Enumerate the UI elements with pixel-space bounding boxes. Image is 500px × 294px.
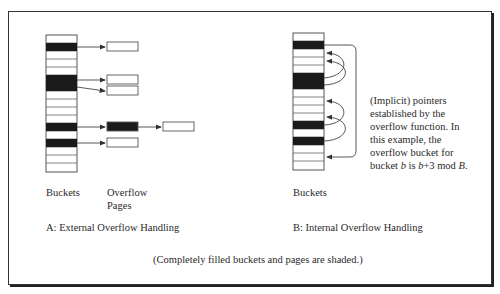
part-a-title: A: External Overflow Handling (46, 222, 179, 234)
note-line-formula: bucket b is b+3 mod B. (370, 159, 468, 172)
overflow-label-a: Overflow (107, 187, 147, 199)
buckets-label-b: Buckets (293, 187, 327, 199)
note-line: (Implicit) pointers (370, 94, 468, 107)
note-line: this example, the (370, 133, 468, 146)
implicit-pointer-note: (Implicit) pointers established by the o… (370, 94, 468, 172)
note-text: bucket (370, 160, 401, 171)
buckets-column-b (293, 33, 324, 170)
note-text: . (465, 160, 468, 171)
implicit-pointers-b (324, 45, 356, 157)
note-line: established by the (370, 107, 468, 120)
overflow-pages-a (107, 42, 194, 147)
pages-label-a: Pages (107, 200, 132, 212)
note-line: overflow bucket for (370, 146, 468, 159)
note-text: +3 mod (423, 160, 458, 171)
buckets-column-a (46, 35, 77, 172)
buckets-label-a: Buckets (46, 187, 80, 199)
part-b-title: B: Internal Overflow Handling (293, 222, 423, 234)
figure-caption: (Completely filled buckets and pages are… (153, 254, 363, 266)
note-line: overflow function. In (370, 120, 468, 133)
note-text: is (406, 160, 418, 171)
